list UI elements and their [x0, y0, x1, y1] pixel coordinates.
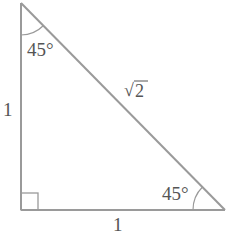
bottom-side-label: 1 [113, 214, 123, 235]
right-angle-arc [193, 187, 203, 210]
radical-sign: √ [124, 80, 134, 100]
top-angle-label: 45° [27, 39, 54, 60]
left-side-label: 1 [3, 99, 13, 120]
hypotenuse-line [21, 3, 225, 210]
top-angle-arc [21, 26, 44, 36]
right-angle-label: 45° [162, 183, 189, 204]
hypotenuse-label: √ 2 [124, 80, 148, 101]
triangle-diagram: 45° 45° 1 1 √ 2 [0, 0, 232, 237]
right-angle-marker [21, 193, 38, 210]
radicand: 2 [135, 81, 144, 101]
